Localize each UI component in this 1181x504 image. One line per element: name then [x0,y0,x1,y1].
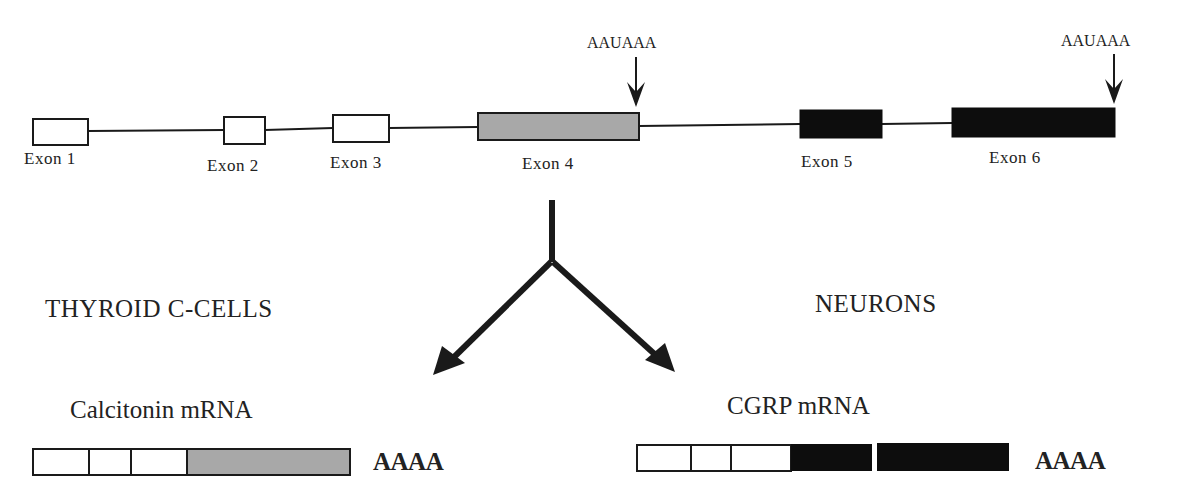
exon-3-label: Exon 3 [330,153,382,173]
tissue-label-neurons: NEURONS [815,290,937,318]
exon-5-box [800,110,882,138]
exon-6-box [952,108,1115,137]
exon-4-box [478,113,639,140]
exon-5-label: Exon 5 [801,152,853,172]
exon-6-label: Exon 6 [989,148,1041,168]
diagram-canvas [0,0,1181,504]
calcitonin-mrna-label: Calcitonin mRNA [70,396,253,424]
polya-signal-label-2: AAUAAA [1061,32,1130,50]
exon-4-label: Exon 4 [522,154,574,174]
splicing-branch-arrows [433,200,675,375]
calcitonin-polya-tail: AAAA [373,448,443,476]
cgrp-mrna-label: CGRP mRNA [727,392,870,420]
polya-signal-arrow-1 [627,57,645,107]
calcitonin-mrna-bar [33,449,350,475]
tissue-label-thyroid: THYROID C-CELLS [45,295,273,323]
cgrp-polya-tail: AAAA [1035,447,1105,475]
polya-signal-arrow-2 [1105,54,1123,104]
cgrp-mrna-bar [637,443,1009,471]
exon-1-box [33,119,88,145]
polya-signal-label-1: AAUAAA [587,34,656,52]
exon-2-box [224,117,265,144]
exon-2-label: Exon 2 [207,156,259,176]
exon-3-box [333,115,389,142]
exon-1-label: Exon 1 [24,149,76,169]
